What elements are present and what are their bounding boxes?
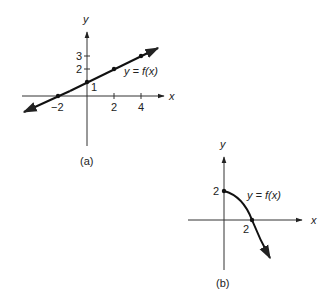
- graph-a: x y −2 2 4 1 2 3 y = f(x) (a): [22, 13, 175, 167]
- curve-label: y = f(x): [123, 65, 158, 77]
- figure-canvas: x y −2 2 4 1 2 3 y = f(x) (a) x y 2 2 y …: [0, 0, 334, 296]
- x-axis-label: x: [310, 214, 317, 226]
- x-axis-label: x: [168, 90, 175, 102]
- y-tick-label: 1: [91, 81, 97, 93]
- caption: (b): [216, 277, 229, 289]
- caption: (a): [80, 155, 93, 167]
- y-axis-label: y: [219, 138, 227, 150]
- x-tick-label: 4: [138, 101, 144, 113]
- y-axis-label: y: [82, 13, 90, 25]
- y-tick-label: 3: [76, 50, 82, 62]
- graph-b: x y 2 2 y = f(x) (b): [188, 138, 317, 289]
- y-tick-label: 2: [76, 63, 82, 75]
- y-tick-label: 2: [213, 185, 219, 197]
- curve-label: y = f(x): [246, 189, 281, 201]
- x-tick-label: 2: [111, 101, 117, 113]
- x-tick-label: 2: [243, 223, 249, 235]
- x-tick-label: −2: [51, 101, 64, 113]
